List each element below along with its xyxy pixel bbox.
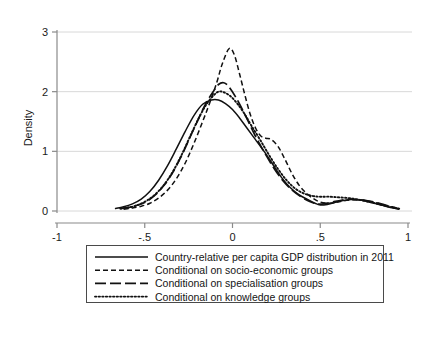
density-plot-figure: -1-.50.51 0123 Density Country-relative …	[0, 0, 440, 338]
x-tick-label-2: 0	[229, 231, 235, 243]
legend-label-3: Conditional on knowledge groups	[155, 291, 310, 303]
x-tick-label-1: -.5	[138, 231, 151, 243]
y-tick-label-1: 1	[42, 145, 48, 157]
legend-label-0: Country-relative per capita GDP distribu…	[155, 251, 394, 263]
y-tick-label-3: 3	[42, 26, 48, 38]
y-tick-label-2: 2	[42, 86, 48, 98]
x-tick-label-3: .5	[316, 231, 325, 243]
y-tick-label-0: 0	[42, 205, 48, 217]
legend: Country-relative per capita GDP distribu…	[87, 246, 395, 303]
x-tick-label-0: -1	[52, 231, 62, 243]
x-tick-label-4: 1	[405, 231, 411, 243]
y-axis-title: Density	[22, 109, 34, 146]
legend-label-1: Conditional on socio-economic groups	[155, 264, 333, 276]
legend-label-2: Conditional on specialisation groups	[155, 277, 323, 289]
